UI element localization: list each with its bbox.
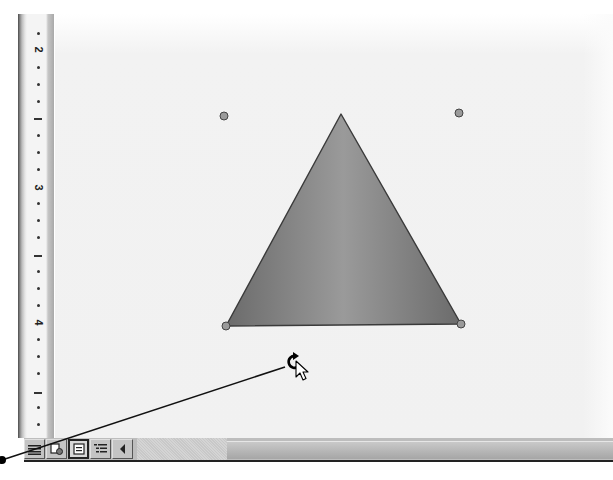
- ruler-tick: [37, 236, 40, 239]
- ruler-tick: [37, 32, 40, 35]
- scroll-left-button[interactable]: [112, 439, 133, 459]
- arrow-left-icon: [119, 444, 127, 454]
- ruler-tick: [37, 304, 40, 307]
- vertical-ruler[interactable]: 234: [18, 14, 54, 438]
- ruler-tick: [37, 202, 40, 205]
- ruler-tick: [37, 219, 40, 222]
- ruler-tick: [37, 151, 40, 154]
- ruler-tick: [37, 83, 40, 86]
- resize-handle-top-right[interactable]: [455, 109, 463, 117]
- horizontal-scroll-thumb[interactable]: [227, 441, 613, 459]
- print-layout-view-button[interactable]: [68, 439, 89, 459]
- horizontal-scroll-track[interactable]: [137, 438, 227, 460]
- ruler-number: [34, 392, 42, 394]
- ruler-tick: [37, 355, 40, 358]
- ruler-tick: [37, 338, 40, 341]
- resize-handle-top-left[interactable]: [220, 112, 228, 120]
- ruler-tick: [37, 168, 40, 171]
- ruler-tick: [37, 134, 40, 137]
- ruler-number: [34, 118, 42, 120]
- ruler-tick: [37, 66, 40, 69]
- ruler-tick: [37, 372, 40, 375]
- web-page-icon: [50, 443, 63, 455]
- resize-handle-bottom-left[interactable]: [222, 322, 230, 330]
- ruler-tick: [37, 287, 40, 290]
- ruler-number: 2: [33, 43, 44, 57]
- ruler-tick: [37, 423, 40, 426]
- page-icon: [73, 443, 85, 455]
- ruler-tick: [37, 406, 40, 409]
- bottom-bar: [24, 438, 613, 462]
- ruler-number: 3: [33, 181, 44, 195]
- ruler-tick: [37, 270, 40, 273]
- resize-handle-bottom-right[interactable]: [457, 320, 465, 328]
- ruler-number: [34, 255, 42, 257]
- ruler-number: 4: [33, 316, 44, 330]
- view-buttons: [24, 439, 134, 459]
- outline-icon: [94, 443, 107, 455]
- outline-view-button[interactable]: [90, 439, 111, 459]
- ruler-tick: [37, 100, 40, 103]
- callout-dot: [0, 456, 6, 464]
